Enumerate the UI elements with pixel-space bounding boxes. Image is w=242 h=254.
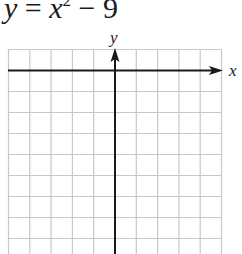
coordinate-grid[interactable]: x y <box>0 0 242 254</box>
y-axis-label: y <box>108 28 118 47</box>
x-axis-label: x <box>228 61 237 80</box>
y-axis <box>111 48 120 254</box>
